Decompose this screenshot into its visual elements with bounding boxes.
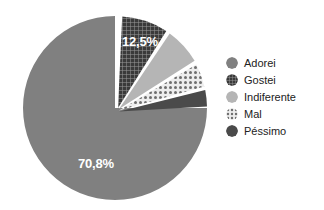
dark-gray-circle-icon — [226, 125, 238, 137]
legend-item-pessimo[interactable]: Péssimo — [226, 122, 322, 139]
solid-gray-circle-icon — [226, 57, 238, 69]
legend-item-mal[interactable]: Mal — [226, 105, 322, 122]
legend-item-gostei[interactable]: Gostei — [226, 71, 322, 88]
legend-label-mal: Mal — [244, 108, 262, 120]
light-gray-circle-icon — [226, 91, 238, 103]
dotted-circle-icon — [226, 108, 238, 120]
pie-chart-figure: 70,8% 12,5% Adorei Gostei Indiferente — [0, 0, 324, 210]
legend-item-adorei[interactable]: Adorei — [226, 54, 322, 71]
legend-label-gostei: Gostei — [244, 74, 276, 86]
legend-label-indiferente: Indiferente — [244, 91, 296, 103]
crosshatch-circle-icon — [226, 74, 238, 86]
pie-svg: 70,8% 12,5% — [18, 10, 218, 206]
chart-legend: Adorei Gostei Indiferente Mal Péssimo — [226, 54, 322, 139]
legend-label-adorei: Adorei — [244, 57, 276, 69]
slice-label-adorei: 70,8% — [78, 156, 115, 171]
legend-item-indiferente[interactable]: Indiferente — [226, 88, 322, 105]
legend-label-pessimo: Péssimo — [244, 125, 286, 137]
slice-label-gostei: 12,5% — [122, 34, 159, 49]
pie-plot-area: 70,8% 12,5% — [18, 10, 218, 206]
